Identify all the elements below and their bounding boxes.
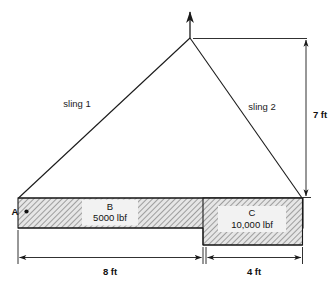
point-a-label: A: [12, 206, 19, 217]
span-right-dimension-label: 4 ft: [247, 266, 262, 277]
span-left-dimension-label: 8 ft: [103, 266, 118, 277]
block-b-load: 5000 lbf: [93, 212, 127, 223]
sling-2-label: sling 2: [248, 101, 275, 112]
diagram-canvas: A sling 1 sling 2 B 5000 lbf C 10,000 lb…: [0, 0, 335, 285]
sling-diagram: A sling 1 sling 2 B 5000 lbf C 10,000 lb…: [0, 0, 335, 285]
sling-1-label: sling 1: [63, 98, 90, 109]
block-c-name: C: [249, 207, 256, 218]
block-c-load: 10,000 lbf: [231, 219, 273, 230]
height-dimension-label: 7 ft: [313, 109, 328, 120]
block-b-name: B: [107, 201, 113, 212]
point-a-marker: [24, 209, 28, 213]
